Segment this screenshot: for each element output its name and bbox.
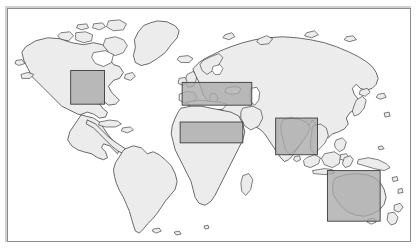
region-box-australia[interactable] bbox=[327, 171, 380, 222]
landmass-newfoundland bbox=[124, 72, 135, 80]
landmass-madagascar bbox=[241, 174, 253, 196]
landmass-greenland bbox=[133, 21, 179, 66]
landmass-philippines bbox=[334, 138, 346, 152]
landmass-sumatra bbox=[304, 155, 321, 168]
landmass-alaska-islet bbox=[15, 60, 25, 66]
landmass-africa bbox=[171, 106, 245, 205]
landmass-pacific-islet-d bbox=[384, 112, 390, 117]
landmass-pacific-islet-b bbox=[392, 177, 398, 182]
region-box-south-asia[interactable] bbox=[276, 118, 318, 155]
landmass-pacific-islet-a bbox=[378, 146, 384, 150]
region-box-north-america[interactable] bbox=[71, 70, 105, 104]
landmass-arctic-islet-b bbox=[77, 24, 89, 30]
map-frame bbox=[7, 8, 411, 242]
region-box-europe-mediterranean[interactable] bbox=[182, 82, 252, 105]
landmass-ellesmere-island bbox=[107, 20, 127, 31]
landmass-kamchatka-islet bbox=[376, 93, 386, 99]
region-box-north-africa[interactable] bbox=[180, 122, 243, 143]
landmass-south-georgia bbox=[174, 231, 181, 235]
landmass-south-america bbox=[113, 146, 177, 233]
landmass-new-guinea bbox=[357, 158, 390, 171]
landmass-iceland bbox=[177, 56, 193, 63]
landmass-pacific-islet-c bbox=[398, 188, 403, 193]
landmass-cuba bbox=[99, 120, 122, 127]
landmass-new-zealand-south bbox=[387, 212, 398, 225]
landmass-arctic-siberian-islet bbox=[305, 31, 319, 38]
landmass-falkland-islands bbox=[152, 228, 161, 233]
landmass-victoria-island bbox=[76, 32, 93, 43]
landmass-borneo bbox=[321, 152, 340, 168]
landmass-southern-islet bbox=[204, 225, 209, 229]
landmass-hispaniola bbox=[121, 127, 133, 133]
landmass-wrangel-islet bbox=[344, 36, 356, 42]
world-map bbox=[8, 9, 410, 241]
landmass-arctic-islet-a bbox=[93, 23, 106, 30]
screenshot-root bbox=[0, 0, 419, 252]
landmass-sri-lanka bbox=[294, 156, 301, 162]
landmass-new-zealand-north bbox=[394, 203, 403, 212]
landmass-svalbard bbox=[223, 33, 235, 40]
